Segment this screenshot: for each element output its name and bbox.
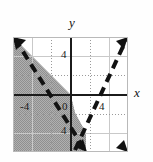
boundary-lines	[13, 37, 128, 152]
dashed-line-positive-slope	[75, 40, 126, 150]
x-axis-label: x	[134, 85, 140, 101]
graph-figure: -4 4 0 4 4 y x	[0, 0, 153, 162]
arrowhead-upper-left	[13, 37, 26, 50]
origin-label: 0	[62, 100, 68, 112]
y-tick-label-plus4: 4	[61, 48, 67, 60]
dashed-line-negative-slope	[15, 39, 85, 150]
x-tick-label-minus4: -4	[20, 100, 29, 112]
x-tick-label-plus4: 4	[99, 100, 105, 112]
arrowhead-lower-right	[116, 140, 128, 152]
y-axis-label: y	[69, 15, 75, 31]
y-tick-label-minus4: 4	[61, 124, 67, 136]
plot-area	[13, 37, 128, 152]
